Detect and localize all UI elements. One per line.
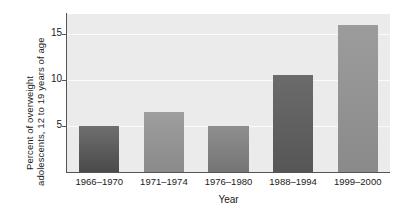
bar: [273, 75, 313, 172]
bar: [79, 126, 119, 172]
y-axis-tick-label: 15: [40, 27, 62, 38]
plot-area: [67, 14, 390, 172]
bar: [338, 25, 378, 172]
y-axis-tick-label: 5: [40, 119, 62, 130]
x-axis-line: [66, 172, 390, 173]
x-axis-tick-labels: 1966–19701971–19741976–19801988–19941999…: [67, 176, 390, 190]
bar: [144, 112, 184, 172]
x-axis-title: Year: [67, 194, 390, 205]
x-axis-tick-label: 1966–1970: [67, 176, 132, 187]
y-axis-tick-labels: 51015: [38, 0, 62, 222]
y-axis-title-line-1: Percent of overweight: [24, 76, 35, 170]
chart-figure: Percent of overweight adolescents, 12 to…: [0, 0, 408, 222]
bar: [208, 126, 248, 172]
y-axis-title: Percent of overweight adolescents, 12 to…: [0, 0, 40, 186]
x-axis-tick-label: 1971–1974: [132, 176, 197, 187]
x-axis-tick-label: 1999–2000: [325, 176, 390, 187]
y-axis-tick-label: 10: [40, 73, 62, 84]
x-axis-tick-label: 1988–1994: [261, 176, 326, 187]
x-axis-tick-label: 1976–1980: [196, 176, 261, 187]
